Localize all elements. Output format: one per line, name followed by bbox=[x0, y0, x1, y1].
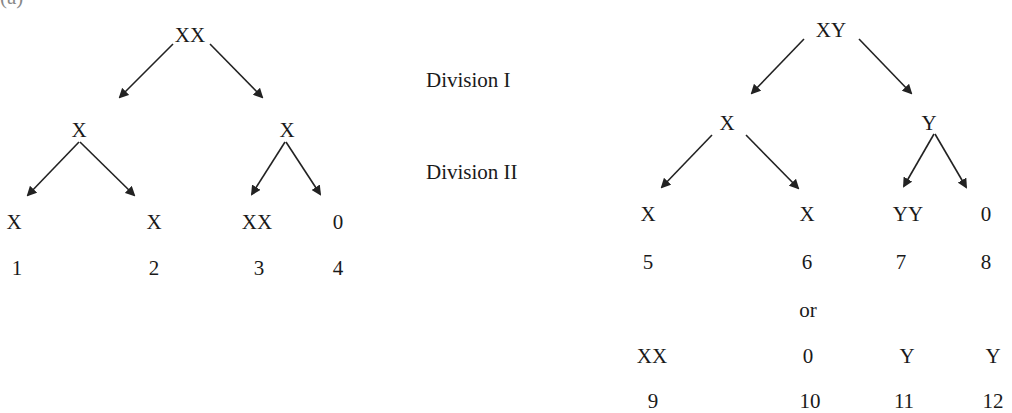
arrow-y-left bbox=[904, 134, 934, 186]
arrow-xy-left bbox=[752, 39, 804, 93]
xy-div2-1: X bbox=[640, 204, 655, 225]
xy-num-9: 9 bbox=[648, 391, 659, 412]
xy-num-8: 8 bbox=[981, 252, 992, 273]
xx-num-4: 4 bbox=[333, 258, 344, 279]
figure-label: (a) bbox=[0, 0, 23, 8]
arrow-layer bbox=[0, 0, 1012, 413]
arrow-xx-right bbox=[210, 44, 262, 97]
arrow-x1-left bbox=[28, 142, 79, 195]
xy-alt-3: Y bbox=[899, 346, 914, 367]
xy-num-7: 7 bbox=[896, 252, 907, 273]
arrow-x1-right bbox=[80, 142, 134, 195]
arrow-xx-left bbox=[120, 44, 173, 97]
xy-alt-2: 0 bbox=[803, 346, 814, 367]
xy-num-5: 5 bbox=[643, 252, 654, 273]
arrow-x2-left bbox=[252, 142, 285, 194]
arrow-x-right bbox=[746, 135, 798, 188]
arrow-x-left bbox=[662, 135, 712, 187]
xx-div1-left: X bbox=[71, 120, 86, 141]
xy-div1-right: Y bbox=[921, 113, 936, 134]
xx-root: XX bbox=[175, 25, 205, 46]
xx-div1-right: X bbox=[279, 120, 294, 141]
xy-num-10: 10 bbox=[800, 391, 821, 412]
arrow-y-right bbox=[935, 134, 966, 187]
xx-div2-3: XX bbox=[242, 212, 272, 233]
xy-alt-4: Y bbox=[985, 346, 1000, 367]
xx-num-2: 2 bbox=[149, 258, 160, 279]
xy-div1-left: X bbox=[719, 113, 734, 134]
xy-div2-4: 0 bbox=[981, 204, 992, 225]
xy-num-6: 6 bbox=[802, 252, 813, 273]
division-2-label: Division II bbox=[426, 162, 518, 183]
xy-alt-1: XX bbox=[637, 346, 667, 367]
xx-div2-1: X bbox=[6, 212, 21, 233]
xx-div2-2: X bbox=[146, 212, 161, 233]
or-label: or bbox=[799, 300, 817, 321]
xx-num-3: 3 bbox=[254, 258, 265, 279]
xy-num-11: 11 bbox=[894, 391, 914, 412]
xy-div2-2: X bbox=[799, 204, 814, 225]
xy-num-12: 12 bbox=[983, 391, 1004, 412]
xy-div2-3: YY bbox=[893, 204, 923, 225]
xx-num-1: 1 bbox=[12, 258, 23, 279]
arrow-xy-right bbox=[859, 39, 911, 93]
division-1-label: Division I bbox=[426, 70, 511, 91]
xx-div2-4: 0 bbox=[333, 212, 344, 233]
xy-root: XY bbox=[816, 20, 846, 41]
arrow-x2-right bbox=[286, 142, 320, 194]
